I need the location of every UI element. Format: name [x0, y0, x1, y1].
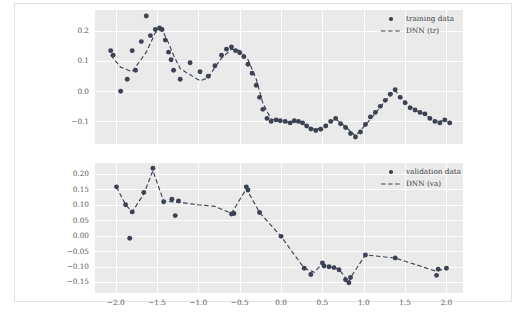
legend-dashed-line-icon: [378, 181, 404, 187]
data-point: [288, 120, 293, 125]
legend-label: DNN (va): [404, 180, 441, 187]
data-point: [224, 47, 229, 52]
data-point: [432, 119, 437, 124]
legend-marker-icon: [378, 170, 404, 174]
legend-entry: training data: [378, 14, 454, 24]
figure-root: −0.10.00.10.2 training dataDNN (tr) −0.1…: [0, 0, 526, 321]
data-point: [169, 57, 174, 62]
panel-training: −0.10.00.10.2 training dataDNN (tr): [0, 0, 526, 160]
legend-entry: DNN (tr): [378, 26, 454, 36]
data-point: [442, 117, 447, 122]
legend-dot-icon: [389, 170, 393, 174]
legend-entry: validation data: [378, 167, 461, 177]
data-point: [144, 14, 149, 19]
data-point: [118, 89, 123, 94]
data-point: [125, 77, 130, 82]
data-point: [265, 116, 270, 121]
data-point: [166, 50, 171, 55]
data-point: [198, 69, 203, 74]
data-point: [308, 272, 313, 277]
data-point: [418, 110, 423, 115]
legend-entry: DNN (va): [378, 179, 461, 189]
legend-label: DNN (tr): [404, 27, 439, 34]
legend-validation: validation dataDNN (va): [378, 167, 461, 189]
data-point: [148, 33, 153, 38]
legend-training: training dataDNN (tr): [378, 14, 454, 36]
data-point: [108, 48, 113, 53]
data-point: [447, 120, 452, 125]
legend-dashed-line-icon: [378, 28, 404, 34]
data-point: [434, 273, 439, 278]
data-point: [130, 48, 135, 53]
data-point: [173, 213, 178, 218]
legend-label: training data: [404, 15, 454, 22]
legend-label: validation data: [404, 168, 461, 175]
data-point: [127, 236, 132, 241]
data-point: [188, 60, 193, 65]
data-point: [150, 166, 155, 171]
data-point: [178, 77, 183, 82]
data-point: [171, 68, 176, 73]
legend-dot-icon: [389, 17, 393, 21]
legend-marker-icon: [378, 17, 404, 21]
data-point: [169, 197, 174, 202]
panel-validation: −0.15−0.10−0.050.000.050.100.150.20 −2.0…: [0, 160, 526, 321]
data-point: [332, 265, 337, 270]
data-point: [139, 39, 144, 44]
